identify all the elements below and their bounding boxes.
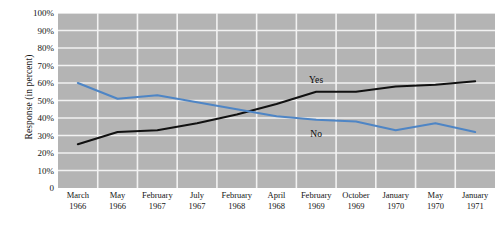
x-tick-month: October xyxy=(342,190,369,201)
x-tick-label: January1971 xyxy=(462,190,488,212)
x-tick-label: February1967 xyxy=(142,190,173,212)
x-tick-year: 1968 xyxy=(268,201,286,212)
y-tick-label: 50% xyxy=(14,96,54,105)
y-axis-tick-labels: 100%90%80%70%60%50%40%30%20%10%0 xyxy=(14,0,54,232)
x-tick-month: January xyxy=(462,190,488,201)
x-tick-year: 1968 xyxy=(221,201,252,212)
x-tick-year: 1966 xyxy=(109,201,126,212)
y-tick-label: 10% xyxy=(14,166,54,175)
x-tick-label: October1969 xyxy=(342,190,369,212)
x-axis-tick-labels: March1966May1966February1967July1967Febr… xyxy=(58,190,495,232)
x-tick-label: February1969 xyxy=(301,190,332,212)
x-tick-month: February xyxy=(221,190,252,201)
x-tick-month: July xyxy=(189,190,206,201)
x-tick-label: February1968 xyxy=(221,190,252,212)
x-tick-year: 1967 xyxy=(142,201,173,212)
x-tick-month: February xyxy=(142,190,173,201)
y-tick-label: 30% xyxy=(14,131,54,140)
y-tick-label: 20% xyxy=(14,149,54,158)
x-tick-year: 1970 xyxy=(382,201,408,212)
x-tick-label: April1968 xyxy=(268,190,286,212)
x-tick-year: 1966 xyxy=(67,201,89,212)
y-tick-label: 100% xyxy=(14,9,54,18)
y-tick-label: 80% xyxy=(14,44,54,53)
series-label-yes: Yes xyxy=(309,75,323,85)
x-tick-month: May xyxy=(427,190,444,201)
plot-area: YesNo xyxy=(58,13,495,188)
y-tick-label: 40% xyxy=(14,114,54,123)
x-tick-year: 1971 xyxy=(462,201,488,212)
series-yes xyxy=(78,81,475,144)
x-tick-year: 1969 xyxy=(301,201,332,212)
x-tick-label: May1970 xyxy=(427,190,444,212)
x-tick-month: May xyxy=(109,190,126,201)
series-no xyxy=(78,83,475,132)
y-tick-label: 70% xyxy=(14,61,54,70)
x-tick-label: May1966 xyxy=(109,190,126,212)
y-tick-label: 60% xyxy=(14,79,54,88)
x-tick-label: July1967 xyxy=(189,190,206,212)
x-tick-month: February xyxy=(301,190,332,201)
x-tick-year: 1967 xyxy=(189,201,206,212)
data-series-lines xyxy=(58,13,495,188)
x-tick-label: March1966 xyxy=(67,190,89,212)
x-tick-year: 1969 xyxy=(342,201,369,212)
x-tick-label: January1970 xyxy=(382,190,408,212)
x-tick-month: January xyxy=(382,190,408,201)
x-tick-month: March xyxy=(67,190,89,201)
x-tick-month: April xyxy=(268,190,286,201)
x-tick-year: 1970 xyxy=(427,201,444,212)
series-label-no: No xyxy=(310,129,322,139)
y-tick-label: 0 xyxy=(14,184,54,193)
y-tick-label: 90% xyxy=(14,26,54,35)
chart-figure: Response (in percent) 100%90%80%70%60%50… xyxy=(0,0,503,232)
